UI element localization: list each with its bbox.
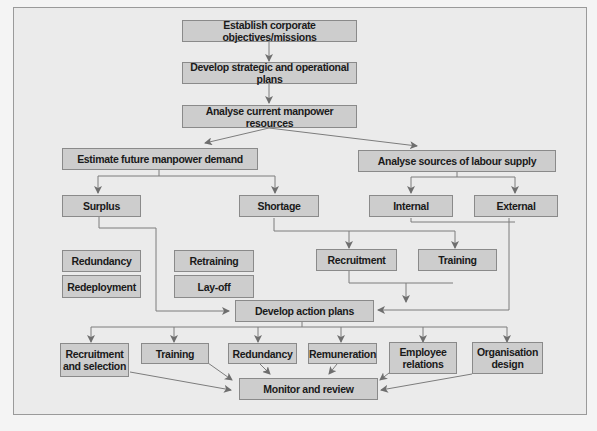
node-redundancy-action: Redundancy [228, 343, 297, 364]
node-recruitment-and-selection: Recruitment and selection [60, 343, 129, 377]
node-estimate-demand: Estimate future manpower demand [62, 148, 258, 170]
node-recruitment: Recruitment [316, 249, 397, 271]
node-analyse-supply: Analyse sources of labour supply [358, 150, 556, 172]
node-surplus: Surplus [62, 195, 141, 217]
node-training-action: Training [141, 343, 209, 364]
node-develop-action-plans: Develop action plans [235, 300, 374, 322]
node-redundancy-option: Redundancy [62, 250, 141, 272]
node-external: External [474, 195, 558, 217]
node-retraining-option: Retraining [174, 250, 254, 272]
node-analyse-current-resources: Analyse current manpower resources [182, 105, 357, 128]
node-develop-strategic-plans: Develop strategic and operational plans [182, 62, 357, 84]
node-monitor-and-review: Monitor and review [239, 378, 378, 400]
node-internal: Internal [369, 195, 453, 217]
node-organisation-design: Organisation design [472, 342, 543, 374]
node-employee-relations: Employee relations [389, 342, 457, 374]
node-remuneration: Remuneration [308, 343, 377, 364]
node-training: Training [418, 249, 497, 271]
node-redeployment-option: Redeployment [62, 275, 141, 298]
node-layoff-option: Lay-off [174, 275, 254, 298]
node-establish-objectives: Establish corporate objectives/missions [182, 20, 357, 42]
node-shortage: Shortage [239, 195, 319, 217]
